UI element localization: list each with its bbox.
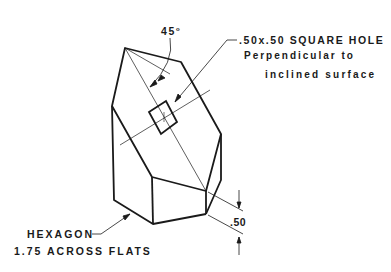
square-hole	[149, 101, 177, 134]
center-lines	[120, 48, 210, 191]
hexagonal-prism-outline	[112, 48, 221, 224]
height-dimension-value: .50	[230, 216, 246, 228]
hexagon-size-label: 1.75 ACROSS FLATS	[14, 245, 152, 257]
angle-label: 45o	[161, 25, 181, 37]
angle-dimension	[150, 38, 171, 87]
hole-callout-line3: inclined surface	[265, 69, 376, 80]
angle-value: 45	[161, 25, 176, 37]
degree-symbol: o	[176, 26, 181, 32]
hole-callout-line1: .50x.50 SQUARE HOLE	[239, 34, 384, 46]
hexagon-label: HEXAGON	[27, 228, 94, 240]
hole-callout-line2: Perpendicular to	[244, 50, 355, 61]
hexagon-leader	[92, 214, 130, 234]
